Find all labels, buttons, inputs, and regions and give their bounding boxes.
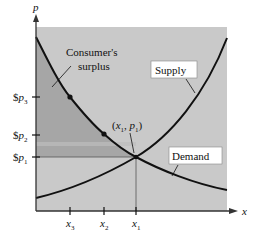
label-p2: $p2 xyxy=(13,129,28,144)
highlight-band xyxy=(36,142,136,146)
consumer-surplus-label-line2: surplus xyxy=(78,60,110,72)
point-x3-p3 xyxy=(67,94,72,99)
demand-label: Demand xyxy=(172,150,210,162)
label-x1: x1 xyxy=(131,217,141,232)
label-p1: $p1 xyxy=(13,151,28,166)
label-p3: $p3 xyxy=(13,91,28,106)
x-axis-arrow-icon xyxy=(229,208,238,214)
x-axis-label: x xyxy=(241,205,247,217)
label-x3: x3 xyxy=(65,217,75,232)
equilibrium-point xyxy=(134,155,138,159)
y-axis-label: p xyxy=(32,1,39,13)
supply-demand-diagram: p x $p3 $p2 $p1 x3 x2 x1 Consumer's surp… xyxy=(0,0,256,240)
label-x2: x2 xyxy=(99,217,109,232)
consumer-surplus-label-line1: Consumer's xyxy=(66,46,117,58)
supply-label: Supply xyxy=(155,64,187,76)
y-axis-arrow-icon xyxy=(33,14,39,22)
point-x2-p2 xyxy=(101,131,106,136)
